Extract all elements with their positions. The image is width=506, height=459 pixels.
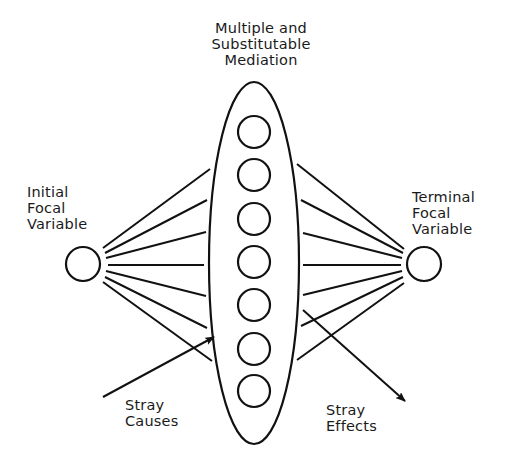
mediator-node-2 [238, 159, 270, 191]
mediation-title-line-1: Multiple and [186, 20, 336, 36]
stray-effects-arrow [303, 310, 405, 401]
mediator-node-1 [238, 116, 270, 148]
terminal-label-line-2: Focal [412, 205, 475, 221]
stray-effects-line-2: Effects [326, 418, 377, 434]
stray-causes-line-1: Stray [125, 397, 178, 413]
initial-label-line-2: Focal [27, 200, 87, 216]
mediator-node-4 [238, 246, 270, 278]
stray-effects-line-1: Stray [326, 402, 377, 418]
stray-causes-label: Stray Causes [125, 397, 178, 429]
stray-causes-line-2: Causes [125, 413, 178, 429]
initial-focal-variable-label: Initial Focal Variable [27, 184, 87, 232]
mediation-to-terminal-lines [297, 164, 404, 360]
terminal-focal-variable-label: Terminal Focal Variable [412, 189, 475, 237]
terminal-focal-variable-node [407, 247, 441, 281]
mediator-node-7 [238, 375, 270, 407]
mediation-title: Multiple and Substitutable Mediation [186, 20, 336, 68]
stray-causes-arrow [103, 337, 214, 397]
mediator-node-5 [238, 289, 270, 321]
initial-label-line-1: Initial [27, 184, 87, 200]
initial-focal-variable-node [66, 247, 100, 281]
initial-label-line-3: Variable [27, 216, 87, 232]
mediation-ellipse [209, 82, 299, 444]
stray-effects-label: Stray Effects [326, 402, 377, 434]
initial-to-mediation-lines [103, 169, 212, 361]
mediation-title-line-3: Mediation [186, 52, 336, 68]
terminal-label-line-3: Variable [412, 221, 475, 237]
terminal-label-line-1: Terminal [412, 189, 475, 205]
mediator-node-3 [238, 203, 270, 235]
mediation-title-line-2: Substitutable [186, 36, 336, 52]
mediator-nodes [238, 116, 270, 407]
mediator-node-6 [238, 333, 270, 365]
